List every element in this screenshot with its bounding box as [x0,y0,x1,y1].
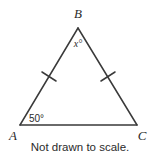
vertex-label-b: B [74,6,82,21]
tick-mark-side-bc [101,72,115,81]
angle-label-50: 50° [29,113,44,124]
triangle-diagram: B A C x° 50° [0,0,160,163]
angle-label-x: x° [73,38,82,49]
geometry-figure-page: B A C x° 50° Not drawn to scale. [0,0,160,163]
tick-mark-side-ab [42,72,56,81]
figure-caption: Not drawn to scale. [0,141,160,153]
